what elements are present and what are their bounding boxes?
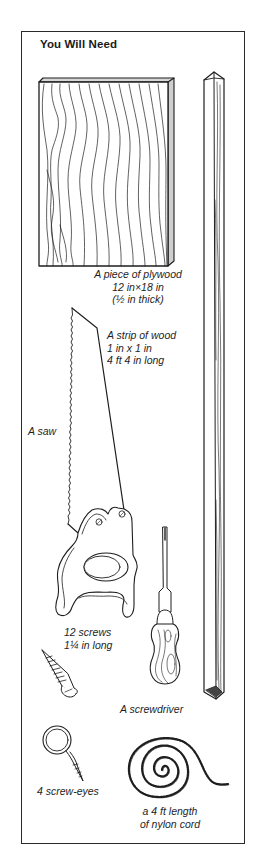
screw-eyes-caption: 4 screw-eyes [37, 785, 99, 798]
saw-caption-line-1: A saw [28, 425, 56, 438]
screwdriver-caption-line-1: A screwdriver [120, 703, 183, 716]
plywood-caption-line-1: A piece of plywood [78, 268, 198, 281]
plywood-caption-line-2: 12 in×18 in [78, 281, 198, 294]
screws-caption-line-2: 1¼ in long [64, 639, 112, 652]
wood-strip-icon [204, 72, 224, 699]
screw-icon [42, 650, 77, 697]
wood-strip-caption: A strip of wood 1 in x 1 in 4 ft 4 in lo… [107, 329, 176, 367]
screwdriver-icon [150, 527, 180, 684]
wood-strip-caption-line-1: A strip of wood [107, 329, 176, 342]
nylon-cord-coil-outline [130, 739, 229, 798]
screwdriver-caption: A screwdriver [120, 703, 183, 716]
wood-strip-caption-line-3: 4 ft 4 in long [107, 354, 176, 367]
wood-strip-caption-line-2: 1 in x 1 in [107, 342, 176, 355]
plywood-caption: A piece of plywood 12 in×18 in (½ in thi… [78, 268, 198, 306]
nylon-cord-caption: a 4 ft length of nylon cord [125, 805, 215, 830]
plywood-board-icon [39, 78, 174, 266]
screws-caption-line-1: 12 screws [64, 626, 112, 639]
saw-caption: A saw [28, 425, 56, 438]
screw-eye-icon [43, 726, 83, 781]
screw-eyes-caption-line-1: 4 screw-eyes [37, 785, 99, 798]
nylon-cord-caption-line-2: of nylon cord [125, 818, 215, 831]
screws-caption: 12 screws 1¼ in long [64, 626, 112, 651]
plywood-caption-line-3: (½ in thick) [78, 293, 198, 306]
nylon-cord-caption-line-1: a 4 ft length [125, 805, 215, 818]
